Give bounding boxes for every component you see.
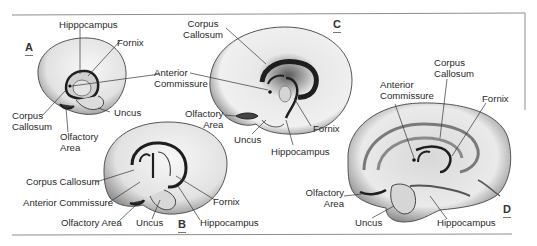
label-c-uncus: Uncus bbox=[234, 134, 261, 145]
brain-development-figure: A Hippocampus Fornix Anterior Commissure… bbox=[0, 0, 537, 246]
label-c-fornix: Fornix bbox=[313, 123, 340, 134]
label-b-olfactory-area: Olfactory Area bbox=[61, 217, 122, 228]
label-d-corpus-callosum: Corpus Callosum bbox=[434, 57, 474, 79]
brain-b bbox=[104, 122, 227, 214]
label-b-corpus-callosum: Corpus Callosum bbox=[26, 176, 100, 187]
label-a-olfactory-area: Olfactory Area bbox=[60, 131, 98, 153]
label-b-anterior-commissure: Anterior Commissure bbox=[23, 197, 113, 208]
brain-a bbox=[38, 38, 126, 114]
label-d-olfactory-area: Olfactory Area bbox=[302, 187, 344, 209]
brain-c bbox=[210, 27, 352, 134]
label-d-anterior-commissure: Anterior Commissure bbox=[380, 79, 434, 101]
panel-letter-d: D bbox=[503, 203, 511, 215]
label-a-uncus: Uncus bbox=[114, 107, 141, 118]
label-b-fornix: Fornix bbox=[213, 196, 240, 207]
panel-letter-a: A bbox=[25, 41, 33, 53]
label-a-fornix: Fornix bbox=[117, 37, 144, 48]
panel-letter-b: B bbox=[178, 218, 186, 230]
brain-d bbox=[348, 103, 511, 222]
label-d-uncus: Uncus bbox=[355, 217, 382, 228]
label-a-corpus-callosum: Corpus Callosum bbox=[12, 110, 52, 132]
label-a-anterior-commissure: Anterior Commissure bbox=[154, 67, 208, 89]
label-c-hippocampus: Hippocampus bbox=[271, 146, 330, 157]
label-d-hippocampus: Hippocampus bbox=[437, 217, 496, 228]
label-c-corpus-callosum: Corpus Callosum bbox=[183, 18, 223, 40]
panel-letter-c: C bbox=[333, 18, 341, 30]
figure-drawing bbox=[0, 0, 537, 246]
label-c-olfactory-area: Olfactory Area bbox=[185, 108, 223, 130]
label-b-uncus: Uncus bbox=[136, 217, 163, 228]
label-d-fornix: Fornix bbox=[482, 93, 509, 104]
label-a-hippocampus: Hippocampus bbox=[59, 19, 118, 30]
label-b-hippocampus: Hippocampus bbox=[200, 217, 259, 228]
